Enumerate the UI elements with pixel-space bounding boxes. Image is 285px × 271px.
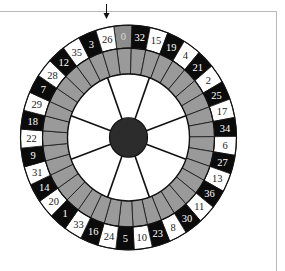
- pocket-number: 32: [135, 32, 146, 43]
- pocket-number: 19: [166, 42, 177, 53]
- pocket-number: 20: [48, 196, 59, 207]
- pocket-number: 13: [212, 173, 223, 184]
- pocket-number: 26: [102, 34, 113, 45]
- pocket-number: 6: [223, 140, 228, 151]
- pocket-number: 27: [217, 157, 228, 168]
- pocket-number: 17: [217, 106, 228, 117]
- pocket-number: 11: [194, 201, 204, 212]
- pocket-number: 30: [182, 213, 193, 224]
- pocket-number: 8: [170, 222, 175, 233]
- pocket-number: 14: [39, 182, 50, 193]
- pocket-number: 29: [31, 99, 42, 110]
- pocket-number: 9: [30, 150, 35, 161]
- ball-slot: [43, 131, 68, 146]
- pocket-number: 5: [123, 233, 128, 244]
- pocket-number: 15: [151, 35, 162, 46]
- pocket-number: 33: [73, 219, 84, 230]
- pocket-number: 3: [89, 39, 94, 50]
- pocket-number: 1: [63, 208, 68, 219]
- pocket-number: 4: [183, 50, 189, 61]
- pocket-number: 22: [26, 133, 37, 144]
- pocket-number: 0: [121, 31, 126, 42]
- pocket-number: 35: [72, 47, 83, 58]
- pocket-number: 24: [104, 231, 115, 242]
- wheel-hub[interactable]: [110, 118, 148, 158]
- down-arrow-icon: [103, 4, 110, 20]
- pocket-number: 28: [47, 70, 58, 81]
- pocket-number: 18: [27, 116, 38, 127]
- pocket-number: 31: [32, 167, 43, 178]
- pocket-number: 34: [220, 123, 231, 134]
- pocket-number: 23: [153, 228, 164, 239]
- pocket-number: 2: [206, 75, 211, 86]
- pocket-number: 12: [58, 57, 69, 68]
- pocket-number: 25: [211, 90, 222, 101]
- pocket-number: 7: [41, 84, 46, 95]
- pocket-number: 10: [137, 232, 148, 243]
- pocket-number: 36: [204, 188, 215, 199]
- pocket-number: 21: [193, 62, 204, 73]
- pocket-number: 16: [88, 226, 99, 237]
